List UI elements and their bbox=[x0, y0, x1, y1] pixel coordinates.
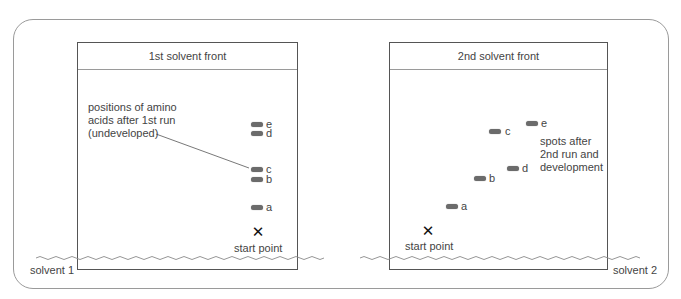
spot-b-run1 bbox=[251, 177, 263, 182]
spot-label-d-run2: d bbox=[522, 162, 528, 174]
solvent-front-1-label: 1st solvent front bbox=[78, 43, 297, 70]
spot-b-run2 bbox=[474, 176, 486, 181]
annotation-run2: spots after 2nd run and development bbox=[540, 135, 603, 174]
spot-c-run2 bbox=[489, 129, 501, 134]
spot-label-b-run2: b bbox=[489, 172, 495, 184]
spot-label-d-run1: d bbox=[266, 127, 272, 139]
spot-label-b-run1: b bbox=[266, 173, 272, 185]
spot-e-run1 bbox=[251, 122, 263, 127]
solvent-1-label: solvent 1 bbox=[30, 264, 74, 276]
spot-d-run1 bbox=[251, 131, 263, 136]
annotation-run1: positions of amino acids after 1st run (… bbox=[88, 101, 177, 140]
spot-a-run1 bbox=[251, 205, 263, 210]
solvent-front-2-label: 2nd solvent front bbox=[390, 43, 607, 70]
spot-label-c-run2: c bbox=[505, 125, 511, 137]
spot-d-run2 bbox=[507, 166, 519, 171]
spot-c-run1 bbox=[251, 167, 263, 172]
start-point-label-2: start point bbox=[405, 240, 453, 252]
start-point-cross-icon-2: ✕ bbox=[421, 223, 435, 238]
spot-a-run2 bbox=[446, 204, 458, 209]
spot-label-e-run2: e bbox=[541, 117, 547, 129]
start-point-cross-icon-1: ✕ bbox=[251, 224, 265, 239]
spot-e-run2 bbox=[526, 121, 538, 126]
spot-label-a-run1: a bbox=[266, 201, 272, 213]
spot-label-a-run2: a bbox=[461, 200, 467, 212]
solvent-2-label: solvent 2 bbox=[613, 264, 657, 276]
start-point-label-1: start point bbox=[234, 242, 282, 254]
